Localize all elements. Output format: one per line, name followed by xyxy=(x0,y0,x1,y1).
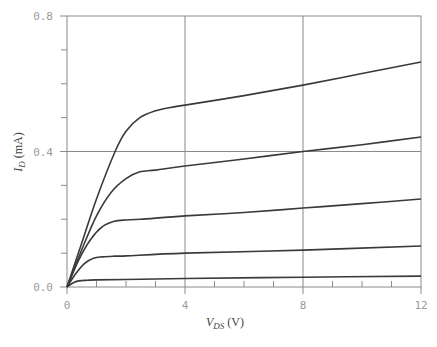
curves xyxy=(67,62,421,287)
curve-4 xyxy=(67,246,421,287)
x-tick-label: 12 xyxy=(414,299,427,312)
x-tick-label: 8 xyxy=(300,299,307,312)
gridlines xyxy=(67,16,421,287)
y-axis-title: ID (mA) xyxy=(11,132,27,173)
x-tick-label: 4 xyxy=(182,299,189,312)
y-tick-label: 0.0 xyxy=(33,281,53,294)
x-tick-label: 0 xyxy=(64,299,71,312)
iv-characteristics-chart: 048120.00.40.8 VDS (V) ID (mA) xyxy=(0,0,437,347)
y-tick-label: 0.4 xyxy=(33,146,53,159)
curve-3 xyxy=(67,199,421,287)
y-tick-label: 0.8 xyxy=(33,10,53,23)
curve-1 xyxy=(67,62,421,287)
x-axis-title: VDS (V) xyxy=(206,315,244,331)
